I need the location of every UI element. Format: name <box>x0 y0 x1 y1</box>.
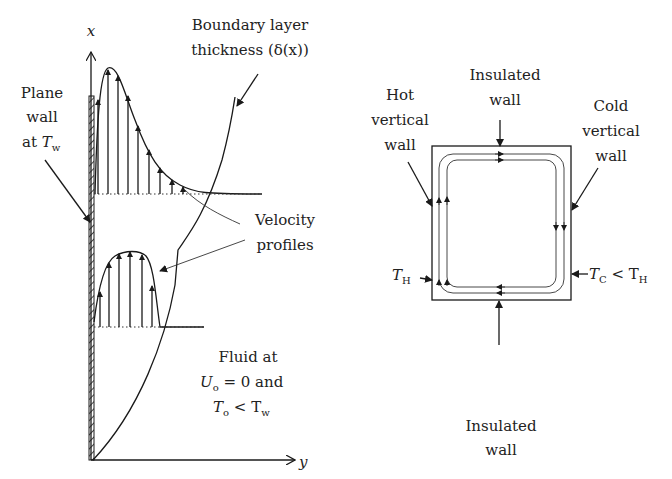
svg-text:Boundary layer: Boundary layer <box>192 16 309 34</box>
boundary-layer-leader-arrow <box>237 74 258 106</box>
svg-text:Hot: Hot <box>386 86 414 104</box>
svg-text:wall: wall <box>26 108 58 126</box>
svg-text:wall: wall <box>595 147 627 165</box>
y-axis-label: y <box>298 453 308 471</box>
boundary-layer-label: Boundary layer thickness (δ(x)) <box>191 16 309 59</box>
svg-text:vertical: vertical <box>370 111 429 129</box>
bottom-insulated-wall-label: Insulated wall <box>465 417 537 459</box>
outer-circulation-loop <box>439 154 564 293</box>
svg-text:To < Tw: To < Tw <box>213 398 270 418</box>
upper-velocity-profile <box>94 68 262 224</box>
svg-text:wall: wall <box>485 441 517 459</box>
circulation-arrows <box>439 154 564 293</box>
svg-text:Insulated: Insulated <box>469 66 541 84</box>
svg-text:Velocity: Velocity <box>254 211 315 229</box>
svg-text:Insulated: Insulated <box>465 417 537 435</box>
figure-canvas: x y <box>0 0 672 479</box>
lower-velocity-profile <box>94 252 204 328</box>
plane-wall-leader-arrow <box>45 160 90 222</box>
svg-text:vertical: vertical <box>581 122 640 140</box>
hot-vertical-wall-label: Hot vertical wall <box>370 86 429 154</box>
fluid-conditions-label: Fluid at Uo = 0 and To < Tw <box>200 348 284 418</box>
cavity-enclosure <box>432 146 571 300</box>
cold-wall-leader-arrow <box>572 168 598 210</box>
svg-text:thickness (δ(x)): thickness (δ(x)) <box>191 41 309 59</box>
hot-wall-leader-arrow <box>408 162 432 206</box>
plane-wall-at: at <box>22 133 42 151</box>
svg-text:wall: wall <box>384 136 416 154</box>
svg-text:wall: wall <box>489 91 521 109</box>
svg-text:Cold: Cold <box>594 97 629 115</box>
plane-wall <box>89 96 94 460</box>
svg-text:Plane: Plane <box>21 84 63 102</box>
right-diagram: Insulated wall Insulated wall Hot vertic… <box>370 66 648 459</box>
svg-text:Fluid at: Fluid at <box>218 348 277 366</box>
inner-circulation-loop <box>447 160 556 287</box>
TH-leader-arrow <box>420 278 432 280</box>
x-axis-label: x <box>87 22 96 40</box>
svg-text:Uo = 0 and: Uo = 0 and <box>200 373 284 393</box>
left-diagram: x y <box>21 16 316 471</box>
svg-text:profiles: profiles <box>256 236 313 254</box>
cold-vertical-wall-label: Cold vertical wall <box>581 97 640 165</box>
top-insulated-wall-label: Insulated wall <box>469 66 541 109</box>
hot-temperature-label: TH <box>392 266 411 286</box>
velocity-profiles-label: Velocity profiles <box>254 211 315 254</box>
plane-wall-label: Plane wall at Tw <box>21 84 63 153</box>
cold-temperature-label: TC < TH <box>589 265 648 285</box>
svg-text:at Tw: at Tw <box>22 133 61 153</box>
velocity-profile-leader-arrow <box>160 240 245 271</box>
